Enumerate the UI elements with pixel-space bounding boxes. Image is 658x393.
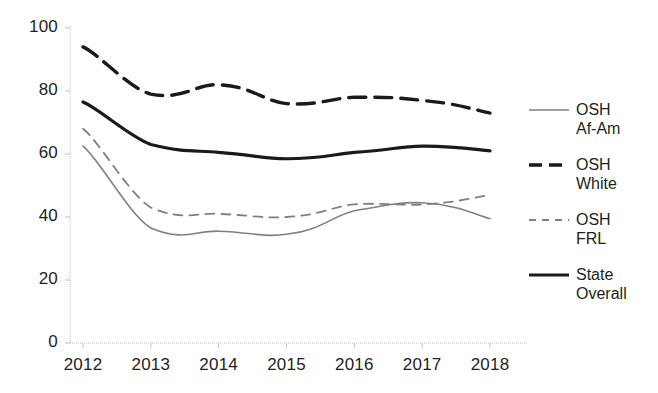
- x-tick-label: 2017: [388, 355, 456, 375]
- line-chart: 020406080100 201220132014201520162017201…: [0, 0, 658, 393]
- y-tick-label: 20: [0, 269, 58, 289]
- legend-item-osh-frl: OSH FRL: [528, 210, 656, 248]
- legend-swatch-icon: [528, 210, 570, 228]
- x-tick-label: 2016: [320, 355, 388, 375]
- legend-label: OSH White: [576, 155, 617, 193]
- legend-label: State Overall: [576, 265, 627, 303]
- x-tick-label: 2012: [49, 355, 117, 375]
- legend-item-state-overall: State Overall: [528, 265, 656, 303]
- legend-swatch-icon: [528, 155, 570, 173]
- y-tick-label: 40: [0, 206, 58, 226]
- series-layer: [83, 47, 490, 236]
- series-line-osh-white: [83, 47, 490, 113]
- axis-layer: [65, 26, 528, 348]
- x-tick-label: 2014: [185, 355, 253, 375]
- series-line-state-overall: [83, 102, 490, 159]
- legend-item-osh-af-am: OSH Af-Am: [528, 100, 656, 138]
- x-tick-label: 2018: [456, 355, 524, 375]
- legend-swatch-icon: [528, 100, 570, 118]
- chart-legend: OSH Af-AmOSH WhiteOSH FRLState Overall: [528, 100, 656, 320]
- y-tick-label: 80: [0, 80, 58, 100]
- y-tick-label: 100: [0, 17, 58, 37]
- x-tick-label: 2015: [253, 355, 321, 375]
- legend-label: OSH Af-Am: [576, 100, 620, 138]
- y-tick-label: 0: [0, 332, 58, 352]
- legend-label: OSH FRL: [576, 210, 611, 248]
- x-tick-label: 2013: [117, 355, 185, 375]
- y-tick-label: 60: [0, 143, 58, 163]
- legend-item-osh-white: OSH White: [528, 155, 656, 193]
- legend-swatch-icon: [528, 265, 570, 283]
